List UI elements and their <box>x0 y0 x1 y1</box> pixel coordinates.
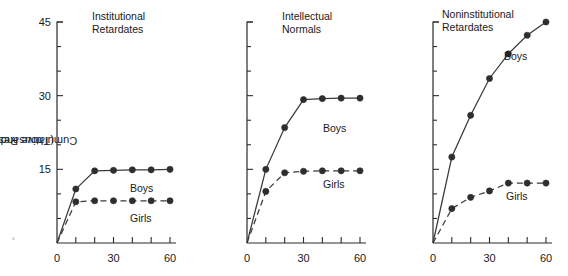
series-label-boys: Boys <box>323 122 346 134</box>
panel-plot: 03060BoysGirls <box>380 0 568 276</box>
series-label-boys: Boys <box>504 50 527 62</box>
svg-text:30: 30 <box>107 252 119 264</box>
svg-text:0: 0 <box>244 252 250 264</box>
panel-plot: 03060BoysGirls <box>190 0 380 276</box>
svg-text:0: 0 <box>54 252 60 264</box>
series-label-girls: Girls <box>506 190 528 202</box>
svg-text:30: 30 <box>483 252 495 264</box>
series-label-girls: Girls <box>130 212 152 224</box>
figure-root: Cumulative Response (Thousands) ˚ Instit… <box>0 0 568 276</box>
svg-text:60: 60 <box>164 252 176 264</box>
svg-text:45: 45 <box>39 16 51 28</box>
panel-noninstitutional-retardates: Noninstitutional Retardates 03060BoysGir… <box>380 0 568 276</box>
svg-text:15: 15 <box>39 163 51 175</box>
svg-text:30: 30 <box>39 90 51 102</box>
svg-text:60: 60 <box>540 252 552 264</box>
panel-institutional-retardates: Institutional Retardates 45301503060Boys… <box>0 0 190 276</box>
svg-text:0: 0 <box>430 252 436 264</box>
panel-plot: 45301503060BoysGirls <box>0 0 190 276</box>
series-label-girls: Girls <box>323 178 345 190</box>
svg-text:30: 30 <box>297 252 309 264</box>
svg-text:60: 60 <box>354 252 366 264</box>
panel-intellectual-normals: Intellectual Normals 03060BoysGirls <box>190 0 380 276</box>
series-label-boys: Boys <box>130 182 153 194</box>
